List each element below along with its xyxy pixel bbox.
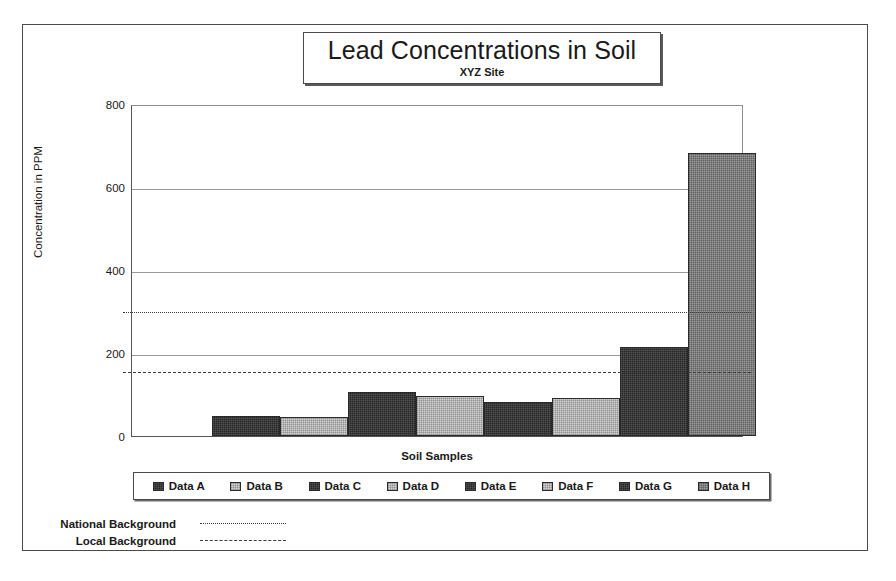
series-legend: Data AData BData CData DData EData FData… (133, 472, 770, 500)
gridline-600 (132, 189, 742, 190)
legend-item-data-e[interactable]: Data E (465, 480, 517, 492)
legend-item-data-a[interactable]: Data A (153, 480, 205, 492)
y-tick-label-200: 200 (79, 348, 125, 360)
legend-item-data-g[interactable]: Data G (619, 480, 672, 492)
chart-subtitle: XYZ Site (304, 65, 660, 79)
legend-label: Data G (635, 480, 672, 492)
legend-swatch-icon (619, 482, 630, 491)
gridline-400 (132, 272, 742, 273)
bar-data-f (552, 398, 620, 436)
bar-data-h (688, 153, 756, 436)
y-tick-label-800: 800 (79, 99, 125, 111)
reference-line-local-background (123, 372, 751, 373)
y-tick-label-400: 400 (79, 265, 125, 277)
legend-label: Data B (246, 480, 282, 492)
legend-item-data-h[interactable]: Data H (698, 480, 750, 492)
reference-line-legend: National BackgroundLocal Background (36, 515, 306, 549)
legend-label: Data C (325, 480, 361, 492)
legend-swatch-icon (698, 482, 709, 491)
legend-item-data-d[interactable]: Data D (387, 480, 439, 492)
chart-title-box: Lead Concentrations in Soil XYZ Site (303, 32, 661, 84)
legend-item-data-f[interactable]: Data F (542, 480, 593, 492)
legend-swatch-icon (309, 482, 320, 491)
legend-label: Data E (481, 480, 517, 492)
bar-data-c (348, 392, 416, 436)
bar-data-g (620, 347, 688, 436)
bar-data-a (212, 416, 280, 436)
y-axis-tick-labels: 8006004002000 (77, 0, 125, 581)
legend-swatch-icon (542, 482, 553, 491)
legend-label: Data H (714, 480, 750, 492)
x-axis-title: Soil Samples (131, 450, 743, 462)
legend-label: Data D (403, 480, 439, 492)
y-axis-title: Concentration in PPM (32, 102, 44, 302)
chart-title: Lead Concentrations in Soil (304, 35, 660, 65)
y-tick-label-0: 0 (79, 431, 125, 443)
ref-legend-label: National Background (36, 518, 176, 530)
ref-legend-row-local-background: Local Background (36, 532, 306, 549)
legend-swatch-icon (387, 482, 398, 491)
bar-data-b (280, 417, 348, 437)
ref-legend-line-sample (200, 540, 286, 541)
bar-data-e (484, 402, 552, 436)
ref-legend-line-sample (200, 523, 286, 524)
legend-item-data-b[interactable]: Data B (230, 480, 282, 492)
plot-area (131, 105, 743, 437)
legend-swatch-icon (230, 482, 241, 491)
legend-swatch-icon (465, 482, 476, 491)
ref-legend-label: Local Background (36, 535, 176, 547)
legend-label: Data F (558, 480, 593, 492)
bar-data-d (416, 396, 484, 436)
legend-label: Data A (169, 480, 205, 492)
y-tick-label-600: 600 (79, 182, 125, 194)
reference-line-national-background (123, 312, 751, 313)
ref-legend-row-national-background: National Background (36, 515, 306, 532)
legend-item-data-c[interactable]: Data C (309, 480, 361, 492)
legend-swatch-icon (153, 482, 164, 491)
